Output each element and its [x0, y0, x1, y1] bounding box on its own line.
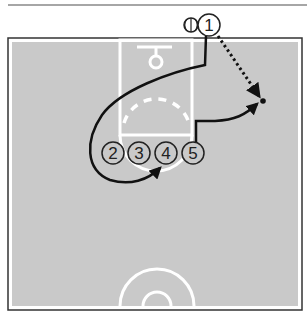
court-floor — [12, 42, 298, 306]
pass-target-point — [260, 98, 266, 104]
player-1[interactable]: 1 — [198, 14, 220, 36]
player-2[interactable]: 2 — [102, 142, 124, 164]
player-3-label: 3 — [134, 144, 143, 163]
player-5-label: 5 — [188, 144, 197, 163]
player-3[interactable]: 3 — [128, 142, 150, 164]
basketball-icon — [184, 18, 198, 32]
player-2-label: 2 — [108, 144, 117, 163]
player-4[interactable]: 4 — [155, 142, 177, 164]
player-4-label: 4 — [161, 144, 170, 163]
basketball-play-diagram: 1 2 3 4 5 — [0, 0, 307, 324]
player-1-label: 1 — [204, 16, 213, 35]
player-5[interactable]: 5 — [182, 142, 204, 164]
